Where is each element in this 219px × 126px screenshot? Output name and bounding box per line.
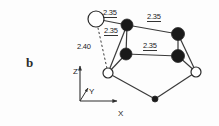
atom-open-a6 [103, 68, 113, 78]
bond-a6-a8 [108, 73, 155, 99]
atom-filled-a4 [120, 48, 132, 60]
axis-y-line [80, 88, 88, 101]
bond-a4-a5 [126, 54, 178, 56]
bond-distance-label-inner: 2.35 [104, 27, 118, 36]
panel-label: b [26, 56, 33, 69]
figure-panel: b 2.352.352.352.352.40 Z Y X [0, 0, 219, 126]
atom-filled-a5 [172, 50, 185, 63]
bond-a8-a7 [155, 72, 196, 99]
axis-label-y: Y [89, 88, 94, 96]
axis-label-x: X [118, 110, 123, 118]
bond-distance-label-middle: 2.35 [143, 42, 157, 51]
atom-open-a7 [191, 67, 201, 77]
atom-filled-a2 [121, 19, 133, 31]
atom-filled-a3 [172, 28, 185, 41]
bond-distance-label-top-right: 2.35 [147, 13, 161, 22]
atom-open-a1 [88, 11, 104, 27]
bond-distance-label-dashed-long: 2.40 [77, 43, 91, 51]
bond-distance-label-top-left: 2.35 [103, 9, 117, 18]
axis-label-z: Z [73, 68, 78, 76]
atom-layer [88, 11, 201, 102]
bond-a2-a3 [127, 25, 178, 34]
atom-filled-a8 [152, 96, 158, 102]
